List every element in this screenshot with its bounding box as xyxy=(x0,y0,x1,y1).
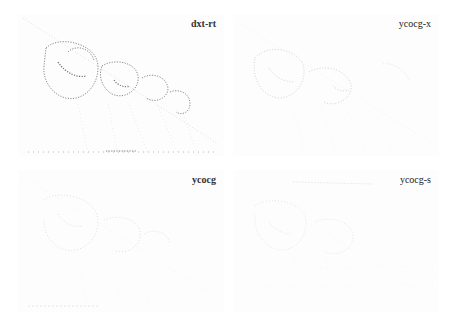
panel-label: ycocg xyxy=(192,174,216,185)
error-image-ycocg xyxy=(18,170,224,312)
panel-label: dxt-rt xyxy=(191,18,216,29)
panel-ycocg-s: ycocg-s xyxy=(233,170,439,312)
panel-ycocg-x: ycocg-x xyxy=(233,14,439,156)
panel-label: ycocg-x xyxy=(399,18,431,29)
panel-ycocg: ycocg xyxy=(18,170,224,312)
error-image-ycocg-s xyxy=(233,170,439,312)
error-image-dxt-rt xyxy=(18,14,224,156)
panel-dxt-rt: dxt-rt xyxy=(18,14,224,156)
panel-label: ycocg-s xyxy=(400,174,431,185)
error-image-ycocg-x xyxy=(233,14,439,156)
